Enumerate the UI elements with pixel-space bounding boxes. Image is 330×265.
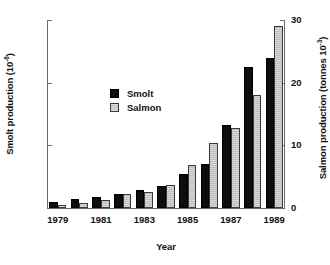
bar-smolt-1983 bbox=[136, 190, 145, 208]
bar-smolt-1989 bbox=[266, 58, 275, 208]
legend-swatch-salmon-icon bbox=[110, 103, 119, 112]
y-tick-label-right-0: 0 bbox=[291, 203, 315, 213]
bar-salmon-1988 bbox=[253, 95, 262, 208]
bar-salmon-1989 bbox=[274, 26, 283, 208]
legend-label-smolt: Smolt bbox=[127, 88, 153, 99]
x-tick-label-1981: 1981 bbox=[81, 214, 121, 225]
bar-salmon-1984 bbox=[166, 185, 175, 208]
bar-smolt-1979 bbox=[49, 202, 58, 208]
legend-item-smolt: Smolt bbox=[110, 86, 161, 100]
bar-salmon-1983 bbox=[144, 192, 153, 208]
bar-salmon-1982 bbox=[123, 194, 132, 208]
legend-item-salmon: Salmon bbox=[110, 100, 161, 114]
x-tick-label-1983: 1983 bbox=[124, 214, 164, 225]
y-axis-title-right-text: Salmon production (tonnes 10 bbox=[317, 45, 328, 179]
x-axis-title: Year bbox=[47, 241, 285, 252]
bar-salmon-1979 bbox=[58, 205, 67, 208]
y-tick-label-right-10: 10 bbox=[291, 140, 315, 150]
bar-salmon-1986 bbox=[209, 143, 218, 208]
y-tick-label-right-20: 20 bbox=[291, 78, 315, 88]
y-axis-title-left: Smolt production (10-6) bbox=[0, 0, 14, 208]
chart-legend: Smolt Salmon bbox=[110, 86, 161, 114]
bar-smolt-1988 bbox=[244, 67, 253, 208]
bar-salmon-1985 bbox=[188, 165, 197, 208]
y-tick-left-0 bbox=[48, 208, 52, 209]
x-axis-line bbox=[47, 208, 285, 209]
bar-group-container bbox=[47, 20, 285, 208]
legend-label-salmon: Salmon bbox=[127, 102, 161, 113]
bar-smolt-1987 bbox=[222, 125, 231, 208]
x-tick-label-1985: 1985 bbox=[168, 214, 208, 225]
legend-swatch-smolt-icon bbox=[110, 89, 119, 98]
bar-smolt-1985 bbox=[179, 174, 188, 208]
plot-area: 0102030 0102030 197919811983198519871989 bbox=[47, 20, 285, 208]
bar-salmon-1981 bbox=[101, 200, 110, 208]
x-tick-label-1989: 1989 bbox=[254, 214, 294, 225]
bar-salmon-1987 bbox=[231, 128, 240, 208]
bar-smolt-1982 bbox=[114, 194, 123, 208]
bar-smolt-1981 bbox=[92, 197, 101, 208]
y-axis-title-left-exponent: -6 bbox=[3, 56, 10, 62]
x-tick-label-1979: 1979 bbox=[38, 214, 78, 225]
bar-salmon-1980 bbox=[79, 203, 88, 208]
bar-smolt-1980 bbox=[71, 199, 80, 208]
y-tick-right-0 bbox=[280, 208, 284, 209]
bar-smolt-1984 bbox=[157, 186, 166, 208]
y-axis-title-right-exponent: -3 bbox=[316, 40, 323, 46]
y-tick-label-right-30: 30 bbox=[291, 15, 315, 25]
x-tick-label-1987: 1987 bbox=[211, 214, 251, 225]
y-axis-title-left-close: ) bbox=[4, 53, 15, 56]
bar-smolt-1986 bbox=[201, 164, 210, 208]
y-axis-title-right: Salmon production (tonnes 10-3) bbox=[313, 4, 327, 212]
y-axis-title-left-text: Smolt production (10 bbox=[4, 62, 15, 155]
y-axis-title-right-close: ) bbox=[317, 37, 328, 40]
